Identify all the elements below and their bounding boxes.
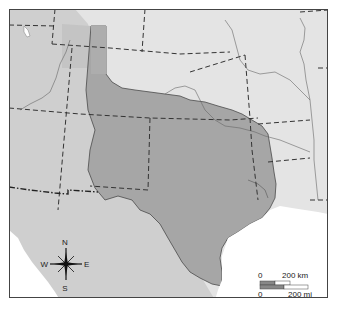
scale-km-label: 200 km	[282, 271, 309, 280]
map-frame: N S E W 0 200 km 0 200 mi	[9, 9, 328, 298]
compass-north-label: N	[62, 238, 68, 247]
compass-south-label: S	[62, 284, 67, 293]
scale-mi-bar-light	[284, 285, 308, 289]
scale-mi-label: 200 mi	[288, 290, 312, 298]
scale-mi-bar-dark	[260, 285, 284, 289]
panhandle-strip	[91, 26, 106, 74]
compass-east-label: E	[84, 260, 89, 269]
scale-km-bar-dark	[260, 281, 275, 285]
scale-km-zero: 0	[258, 271, 263, 280]
scale-km-bar-light	[275, 281, 290, 285]
scale-mi-zero: 0	[258, 290, 263, 298]
map-canvas: N S E W 0 200 km 0 200 mi	[9, 9, 328, 298]
compass-west-label: W	[40, 260, 48, 269]
